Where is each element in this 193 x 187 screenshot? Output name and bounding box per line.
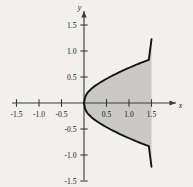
- x-tick-label-1.0: 1.0: [124, 110, 134, 119]
- y-axis-arrowhead: [81, 11, 86, 18]
- x-tick-label--1.0: -1.0: [33, 110, 45, 119]
- y-axis-label: y: [77, 3, 82, 12]
- y-tick-label-1.0: 1.0: [67, 47, 77, 56]
- y-tick-label--1.5: -1.5: [64, 177, 76, 186]
- parabola-region-figure: -1.5 -1.0 -0.5 0.5 1.0 1.5 1.5 1.0 0.5 -…: [0, 0, 193, 187]
- y-tick-label--0.5: -0.5: [64, 125, 76, 134]
- x-tick-label-0.5: 0.5: [102, 110, 112, 119]
- y-tick-label--1.0: -1.0: [64, 151, 76, 160]
- x-tick-label--1.5: -1.5: [10, 110, 22, 119]
- y-tick-label-0.5: 0.5: [67, 73, 77, 82]
- plot-canvas: -1.5 -1.0 -0.5 0.5 1.0 1.5 1.5 1.0 0.5 -…: [0, 0, 193, 187]
- x-tick-label-1.5: 1.5: [147, 110, 157, 119]
- x-axis-arrowhead: [170, 100, 177, 105]
- y-tick-label-1.5: 1.5: [67, 21, 77, 30]
- x-axis-label: x: [178, 101, 183, 110]
- x-tick-label--0.5: -0.5: [55, 110, 67, 119]
